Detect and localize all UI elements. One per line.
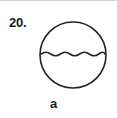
circle-with-water-level-diagram (38, 15, 108, 95)
diagram-container (38, 15, 108, 95)
figure-caption-label: a (0, 97, 107, 110)
problem-number-label: 20. (9, 16, 26, 29)
figure-panel: 20. a (0, 0, 118, 118)
